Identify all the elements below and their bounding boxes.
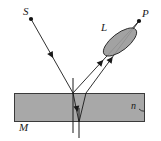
- label-mirror-m: M: [19, 122, 28, 133]
- incident-ray-arrowhead: [47, 51, 56, 60]
- optics-diagram: S P L M n: [0, 0, 161, 141]
- label-source-s: S: [23, 6, 29, 17]
- diagram-canvas: [0, 0, 161, 141]
- image-point-marker: [137, 19, 141, 23]
- source-point-marker: [29, 17, 33, 21]
- label-lens-l: L: [101, 22, 107, 33]
- label-point-p: P: [142, 8, 149, 19]
- label-index-n: n: [131, 101, 136, 111]
